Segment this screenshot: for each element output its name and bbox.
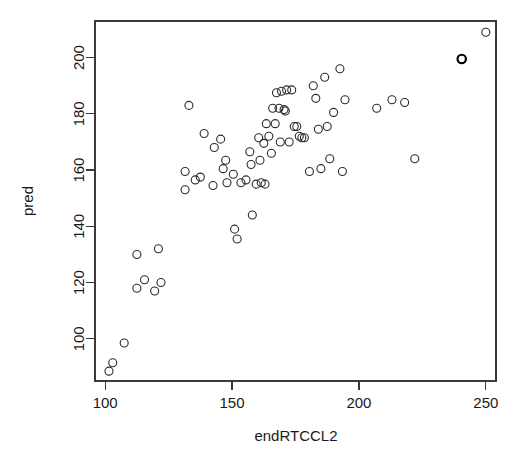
x-axis-title: endRTCCL2 xyxy=(254,427,337,444)
data-point-marker xyxy=(309,82,317,90)
data-point-marker xyxy=(223,179,231,187)
data-point-marker xyxy=(260,139,268,147)
data-point-marker xyxy=(133,284,141,292)
x-axis: 100150200250 xyxy=(93,381,499,411)
data-point-marker xyxy=(267,149,275,157)
data-point-marker xyxy=(341,96,349,104)
data-point-marker xyxy=(140,276,148,284)
data-point-marker xyxy=(336,65,344,73)
data-point-marker xyxy=(181,186,189,194)
data-point-marker xyxy=(272,89,280,97)
data-point-marker xyxy=(233,235,241,243)
data-point-marker xyxy=(248,211,256,219)
data-point-marker xyxy=(317,165,325,173)
y-tick-label: 140 xyxy=(70,214,87,239)
y-tick-label: 160 xyxy=(70,158,87,183)
x-tick-label: 150 xyxy=(220,394,245,411)
data-point-marker xyxy=(133,250,141,258)
y-tick-label: 100 xyxy=(70,326,87,351)
data-point-marker xyxy=(219,165,227,173)
data-point-marker xyxy=(151,287,159,295)
data-point-marker xyxy=(265,132,273,140)
data-point-marker xyxy=(482,28,490,36)
data-point-marker xyxy=(401,99,409,107)
plot-frame xyxy=(95,21,496,381)
data-point-marker xyxy=(154,245,162,253)
data-point-marker xyxy=(222,156,230,164)
x-tick-label: 100 xyxy=(93,394,118,411)
data-point-marker xyxy=(330,108,338,116)
data-point-marker xyxy=(323,122,331,130)
plot-box-border xyxy=(95,21,496,381)
plot-canvas: 100150200250 100120140160180200 endRTCCL… xyxy=(0,0,524,468)
data-point-marker xyxy=(247,160,255,168)
data-point-marker xyxy=(288,86,296,94)
data-points xyxy=(105,28,490,375)
data-point-marker xyxy=(388,96,396,104)
data-point-marker xyxy=(373,104,381,112)
data-point-marker xyxy=(109,359,117,367)
data-point-marker xyxy=(285,138,293,146)
data-point-marker xyxy=(246,148,254,156)
data-point-marker xyxy=(256,156,264,164)
data-point-marker xyxy=(276,138,284,146)
data-point-marker xyxy=(326,155,334,163)
y-tick-label: 180 xyxy=(70,101,87,126)
scatter-plot-figure: 100150200250 100120140160180200 endRTCCL… xyxy=(0,0,524,468)
x-tick-label: 200 xyxy=(346,394,371,411)
data-point-marker xyxy=(411,155,419,163)
data-point-marker xyxy=(120,339,128,347)
data-point-marker xyxy=(321,73,329,81)
data-point-marker xyxy=(229,170,237,178)
data-point-marker xyxy=(278,87,286,95)
data-point-marker xyxy=(458,55,466,63)
data-point-marker xyxy=(181,167,189,175)
data-point-marker xyxy=(105,367,113,375)
data-point-marker xyxy=(252,180,260,188)
data-point-marker xyxy=(338,167,346,175)
y-axis: 100120140160180200 xyxy=(70,45,95,351)
data-point-marker xyxy=(200,130,208,138)
y-tick-label: 120 xyxy=(70,270,87,295)
x-tick-label: 250 xyxy=(473,394,498,411)
data-point-marker xyxy=(231,225,239,233)
data-point-marker xyxy=(185,101,193,109)
y-axis-title: pred xyxy=(19,186,36,216)
data-point-marker xyxy=(209,182,217,190)
data-point-marker xyxy=(271,120,279,128)
data-point-marker xyxy=(157,279,165,287)
data-point-marker xyxy=(217,135,225,143)
data-point-marker xyxy=(210,144,218,152)
data-point-marker xyxy=(312,94,320,102)
y-tick-label: 200 xyxy=(70,45,87,70)
data-point-marker xyxy=(314,125,322,133)
data-point-marker xyxy=(262,120,270,128)
data-point-marker xyxy=(305,167,313,175)
